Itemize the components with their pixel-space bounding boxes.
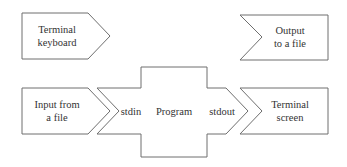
output-file-node: Output to a file <box>240 15 328 60</box>
input-file-label-1: Input from <box>34 99 79 110</box>
output-file-label-1: Output <box>275 25 304 36</box>
program-node: stdin Program stdout <box>97 67 248 157</box>
input-file-label-2: a file <box>46 112 68 123</box>
program-label: Program <box>156 106 192 117</box>
terminal-screen-label-2: screen <box>277 112 305 123</box>
input-file-node: Input from a file <box>22 88 110 134</box>
terminal-keyboard-label-2: keyboard <box>37 37 77 48</box>
terminal-keyboard-label-1: Terminal <box>38 24 76 35</box>
stdin-label: stdin <box>121 106 142 117</box>
terminal-screen-node: Terminal screen <box>240 88 328 134</box>
io-diagram: Terminal keyboard Output to a file stdin… <box>0 0 347 167</box>
terminal-keyboard-shape <box>22 13 110 59</box>
terminal-keyboard-node: Terminal keyboard <box>22 13 110 59</box>
input-file-shape <box>22 88 110 134</box>
stdout-label: stdout <box>209 106 235 117</box>
output-file-label-2: to a file <box>274 38 306 49</box>
terminal-screen-label-1: Terminal <box>271 99 309 110</box>
terminal-screen-shape <box>240 88 328 134</box>
